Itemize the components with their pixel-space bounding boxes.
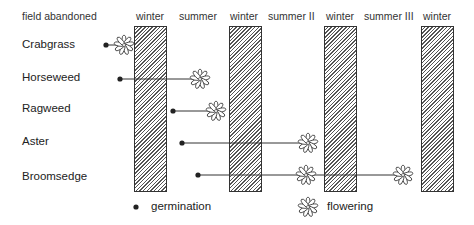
flowering-icon — [114, 35, 134, 55]
legend-flowering-icon — [298, 197, 318, 217]
legend-germination-icon — [133, 204, 138, 209]
horseweed-timeline — [117, 69, 210, 89]
ragweed-timeline — [170, 101, 226, 121]
lifespan-lines — [0, 0, 474, 225]
aster-timeline — [179, 133, 318, 153]
broomsedge-timeline — [195, 165, 413, 185]
crabgrass-timeline — [103, 35, 134, 55]
legend-germination-label: germination — [151, 200, 211, 212]
germination-dot-icon — [103, 42, 108, 47]
legend-flowering-label: flowering — [327, 200, 373, 212]
